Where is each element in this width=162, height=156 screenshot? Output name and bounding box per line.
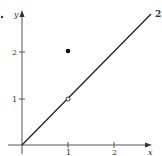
y-tick-label-2: 2 xyxy=(12,48,17,57)
x-axis-arrow-icon xyxy=(145,143,152,148)
corner-mark: 2 xyxy=(155,9,161,19)
x-tick-label-2: 2 xyxy=(112,148,117,156)
x-axis-label: x xyxy=(148,148,153,156)
left-mark xyxy=(1,16,3,18)
filled-point-1-2 xyxy=(66,49,71,54)
open-point-1-1 xyxy=(66,97,70,101)
x-tick-label-1: 1 xyxy=(66,148,71,156)
y-axis-label: y xyxy=(13,10,19,19)
y-tick-label-1: 1 xyxy=(12,95,17,104)
y-axis-arrow-icon xyxy=(20,10,25,17)
function-line xyxy=(22,14,151,145)
function-graph: 1 2 1 2 x y 2 xyxy=(0,0,162,156)
